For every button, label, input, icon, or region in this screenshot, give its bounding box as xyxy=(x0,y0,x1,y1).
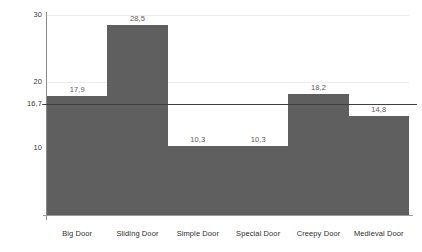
bar xyxy=(288,94,348,215)
x-axis-category-label: Simple Door xyxy=(168,229,228,238)
y-axis-tick-label: 20 xyxy=(33,77,42,87)
y-axis-tick-label: 30 xyxy=(33,10,42,20)
bar xyxy=(168,146,228,215)
y-axis-tick: 30 xyxy=(0,10,42,20)
bar xyxy=(349,116,409,215)
bar-value-label: 28,5 xyxy=(107,14,167,23)
x-axis-category-label: Medieval Door xyxy=(349,229,409,238)
bar xyxy=(47,96,107,215)
bar-value-label: 10,3 xyxy=(228,135,288,144)
bar-value-label: 17,9 xyxy=(47,85,107,94)
x-axis-line xyxy=(43,215,413,216)
y-axis-tick-label: 16,7 xyxy=(27,99,42,109)
bar-value-label: 14,8 xyxy=(349,105,409,114)
x-axis-category-label: Creepy Door xyxy=(288,229,348,238)
x-axis-category-label: Special Door xyxy=(228,229,288,238)
x-axis-category-label: Sliding Door xyxy=(107,229,167,238)
bar xyxy=(228,146,288,215)
bar-chart: 10203016,7 17,928,510,310,318,214,8 Big … xyxy=(0,0,422,252)
y-axis-tick: 10 xyxy=(0,143,42,153)
y-axis-tick-label: 10 xyxy=(33,143,42,153)
x-axis-category-label: Big Door xyxy=(47,229,107,238)
y-axis-tick: 20 xyxy=(0,77,42,87)
y-axis-reference-tick: 16,7 xyxy=(0,99,42,109)
bar-value-label: 18,2 xyxy=(288,83,348,92)
reference-line xyxy=(43,104,417,105)
bar xyxy=(107,25,167,215)
bar-value-label: 10,3 xyxy=(168,135,228,144)
